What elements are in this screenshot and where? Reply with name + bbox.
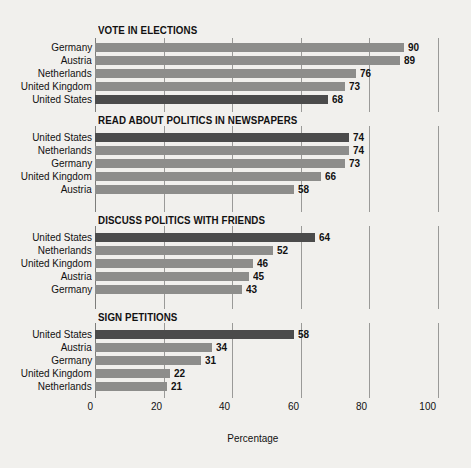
bar (95, 233, 315, 242)
bar-row: Germany73 (0, 157, 471, 170)
category-label: United States (32, 231, 92, 243)
grouped-bar-chart: VOTE IN ELECTIONSGermany90Austria89Nethe… (0, 0, 471, 468)
category-label: Netherlands (38, 144, 92, 156)
bar (95, 356, 201, 365)
bar (95, 172, 321, 181)
panel-title: SIGN PETITIONS (98, 311, 177, 323)
category-label: United States (32, 328, 92, 340)
panel-title: DISCUSS POLITICS WITH FRIENDS (98, 214, 265, 226)
bar-row: Austria34 (0, 341, 471, 354)
bar-row: Netherlands76 (0, 67, 471, 80)
x-axis-title-text: Percentage (227, 432, 278, 444)
bar (95, 82, 345, 91)
bar-row: Netherlands52 (0, 244, 471, 257)
bar (95, 56, 400, 65)
bar-row: United States64 (0, 231, 471, 244)
bar-row: Netherlands74 (0, 144, 471, 157)
panel-rows: United States74Netherlands74Germany73Uni… (0, 131, 471, 196)
bar (95, 330, 294, 339)
bar-value-label: 68 (332, 93, 343, 105)
bar (95, 69, 356, 78)
bar-row: Austria89 (0, 54, 471, 67)
category-label: Germany (51, 41, 92, 53)
bar (95, 285, 242, 294)
bar-value-label: 52 (277, 244, 288, 256)
bar-row: United Kingdom73 (0, 80, 471, 93)
bar-row: United States58 (0, 328, 471, 341)
x-tick-label-40: 40 (219, 400, 230, 412)
category-label: Austria (61, 341, 92, 353)
bar (95, 382, 167, 391)
bar (95, 259, 253, 268)
category-label: Germany (51, 157, 92, 169)
bar-value-label: 43 (246, 283, 257, 295)
bar (95, 133, 349, 142)
bar-value-label: 45 (253, 270, 264, 282)
bar-value-label: 74 (353, 131, 364, 143)
panel-rows: United States58Austria34Germany31United … (0, 328, 471, 393)
x-tick-label-60: 60 (288, 400, 299, 412)
bar-row: Germany90 (0, 41, 471, 54)
bar (95, 246, 273, 255)
bar (95, 369, 170, 378)
bar-row: United Kingdom22 (0, 367, 471, 380)
category-label: Austria (61, 183, 92, 195)
category-label: Austria (61, 54, 92, 66)
bar-value-label: 73 (349, 80, 360, 92)
bar-value-label: 21 (171, 380, 182, 392)
panel-rows: United States64Netherlands52United Kingd… (0, 231, 471, 296)
bar-row: Netherlands21 (0, 380, 471, 393)
bar-row: Austria45 (0, 270, 471, 283)
bar-value-label: 31 (205, 354, 216, 366)
bar-value-label: 64 (319, 231, 330, 243)
x-axis-title: Percentage (0, 432, 471, 444)
category-label: United Kingdom (21, 257, 92, 269)
category-label: Netherlands (38, 244, 92, 256)
bar-value-label: 58 (298, 328, 309, 340)
bar-value-label: 66 (325, 170, 336, 182)
x-tick-label-100: 100 (419, 400, 436, 412)
bar-value-label: 89 (404, 54, 415, 66)
bar-value-label: 73 (349, 157, 360, 169)
bar-value-label: 90 (408, 41, 419, 53)
category-label: Germany (51, 354, 92, 366)
category-label: United Kingdom (21, 367, 92, 379)
category-label: Germany (51, 283, 92, 295)
category-label: United States (32, 131, 92, 143)
bar-row: Germany43 (0, 283, 471, 296)
category-label: United States (32, 93, 92, 105)
x-tick-label-20: 20 (150, 400, 161, 412)
bar-value-label: 22 (174, 367, 185, 379)
bar-row: United States74 (0, 131, 471, 144)
bar-value-label: 58 (298, 183, 309, 195)
x-axis-tick-labels: 020406080100 (0, 400, 471, 414)
bar-row: Germany31 (0, 354, 471, 367)
bar (95, 185, 294, 194)
bar (95, 272, 249, 281)
bar-row: United Kingdom66 (0, 170, 471, 183)
category-label: United Kingdom (21, 170, 92, 182)
bar-value-label: 46 (257, 257, 268, 269)
category-label: Netherlands (38, 67, 92, 79)
category-label: Austria (61, 270, 92, 282)
bar (95, 159, 345, 168)
panel-title: VOTE IN ELECTIONS (98, 24, 197, 36)
bar-row: Austria58 (0, 183, 471, 196)
bar (95, 343, 212, 352)
bar-value-label: 74 (353, 144, 364, 156)
x-tick-label-80: 80 (356, 400, 367, 412)
bar (95, 146, 349, 155)
bar-value-label: 76 (360, 67, 371, 79)
bar-value-label: 34 (216, 341, 227, 353)
category-label: United Kingdom (21, 80, 92, 92)
panel-rows: Germany90Austria89Netherlands76United Ki… (0, 41, 471, 106)
bar-row: United States68 (0, 93, 471, 106)
x-tick-label-0: 0 (87, 400, 93, 412)
bar-row: United Kingdom46 (0, 257, 471, 270)
bar (95, 95, 328, 104)
panel-title: READ ABOUT POLITICS IN NEWSPAPERS (98, 114, 297, 126)
bar (95, 43, 404, 52)
category-label: Netherlands (38, 380, 92, 392)
